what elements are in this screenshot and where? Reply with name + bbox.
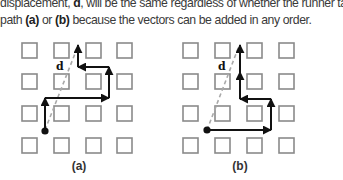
panel-label-a: (a): [72, 159, 87, 173]
panel-b: d (b): [183, 43, 294, 173]
vector-addition-figure: d (a): [0, 0, 343, 180]
vector-label-d-b: d: [218, 60, 226, 73]
city-blocks-grid-b: [183, 43, 294, 153]
vector-label-d-a: d: [56, 60, 64, 73]
panel-label-b: (b): [232, 159, 247, 173]
panel-a: d (a): [22, 43, 132, 173]
start-point-a: [41, 127, 48, 134]
start-point-b: [203, 126, 210, 133]
